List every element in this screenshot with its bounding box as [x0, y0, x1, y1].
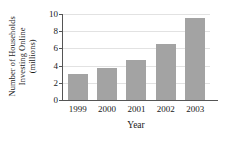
plot-area: [62, 14, 210, 100]
bar-slot: [151, 14, 180, 100]
y-axis-tick-labels: 0246810: [44, 14, 58, 100]
bar-chart-figure: Number of Households Investing Online (m…: [0, 0, 227, 144]
bar-slot: [92, 14, 121, 100]
y-axis-tick-label: 4: [54, 61, 59, 70]
y-axis-tick-label: 2: [54, 78, 59, 87]
x-axis-title: Year: [62, 119, 210, 131]
y-axis-tick-label: 6: [54, 44, 59, 53]
x-axis-tick-labels: 19992000200120022003: [63, 103, 210, 117]
y-axis-title-line-3: (millions): [28, 16, 38, 96]
x-axis-tick-label: 1999: [63, 103, 92, 117]
x-axis-tick-label: 2001: [122, 103, 151, 117]
y-axis-title-line-1: Number of Households: [8, 16, 18, 96]
bars-group: [63, 14, 210, 100]
y-axis-tick-label: 10: [49, 10, 58, 19]
bar-2000: [97, 68, 117, 100]
x-axis-tick-label: 2000: [92, 103, 121, 117]
x-axis-tick-label: 2002: [151, 103, 180, 117]
y-axis-tick-label: 0: [54, 96, 59, 105]
bar-2002: [156, 44, 176, 100]
bar-slot: [122, 14, 151, 100]
bar-2001: [126, 60, 146, 100]
x-axis-line: [62, 100, 218, 101]
y-axis-title: Number of Households Investing Online (m…: [0, 0, 46, 112]
bar-2003: [185, 18, 205, 100]
y-axis-title-line-2: Investing Online: [18, 16, 28, 96]
x-axis-tick-label: 2003: [181, 103, 210, 117]
y-axis-tick-label: 8: [54, 27, 59, 36]
bar-1999: [68, 74, 88, 100]
bar-slot: [63, 14, 92, 100]
bar-slot: [181, 14, 210, 100]
